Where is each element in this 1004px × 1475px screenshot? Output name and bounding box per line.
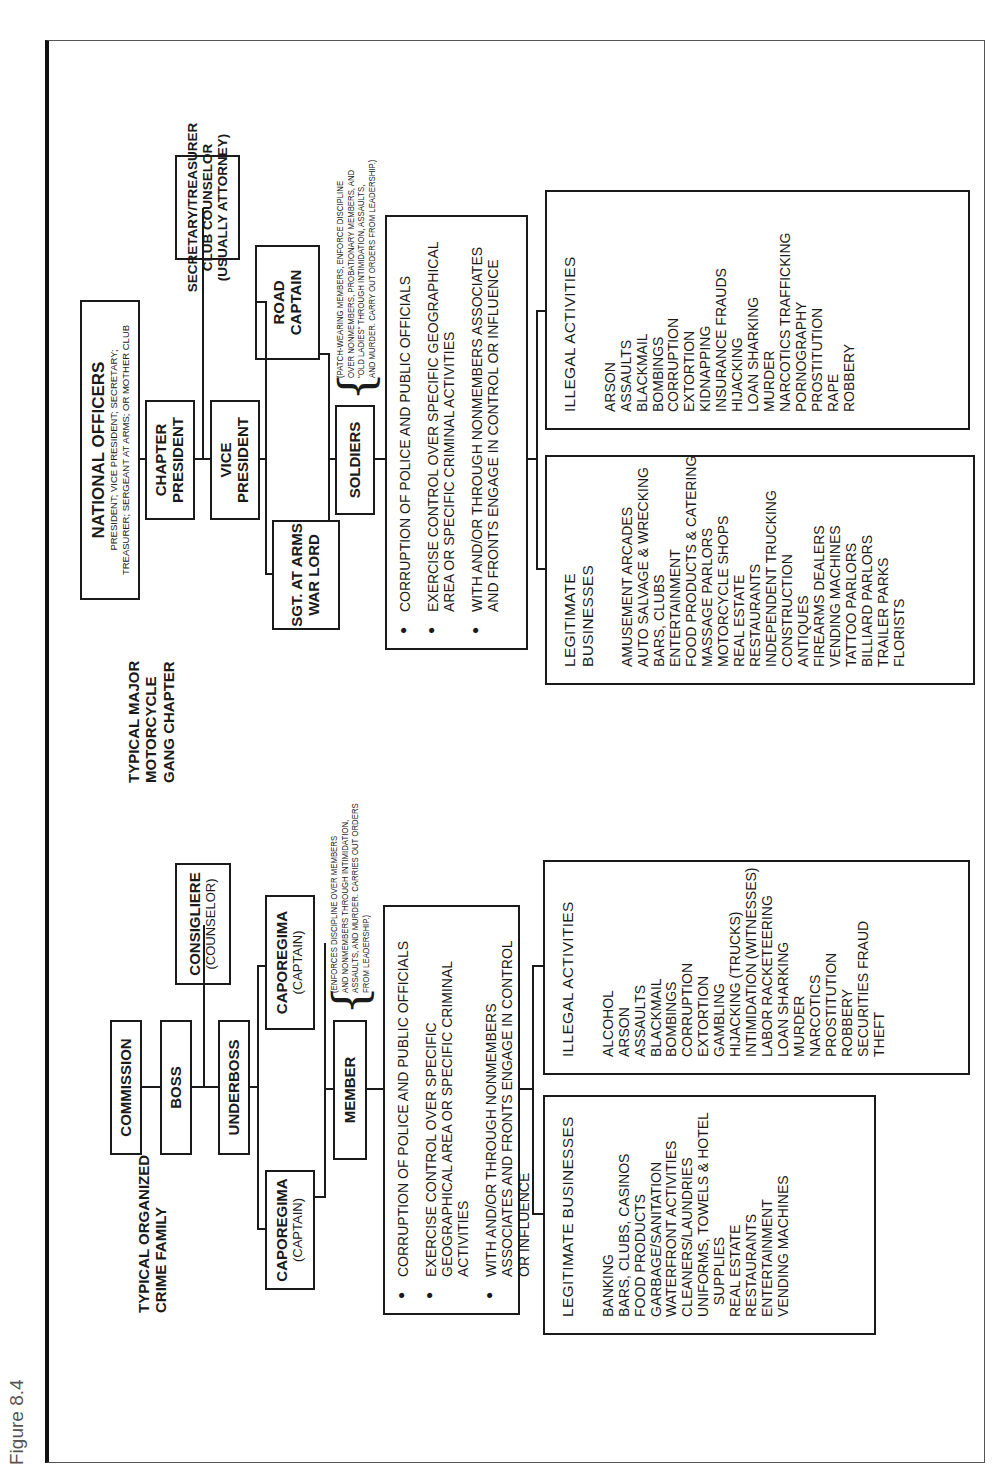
list-item: RESTAURANTS	[744, 1113, 760, 1317]
list-item: MOTORCYCLE SHOPS	[716, 473, 732, 667]
boss-label: BOSS	[168, 1066, 185, 1109]
legitimate-heading: LEGITIMATE BUSINESSES	[561, 473, 596, 667]
list-item: HIJACKING	[730, 208, 746, 412]
vice-president-box: VICE PRESIDENT	[210, 400, 260, 520]
list-item: INDEPENDENT TRUCKING	[764, 473, 780, 667]
connector	[202, 208, 204, 460]
motorcycle-legitimate-box: LEGITIMATE BUSINESSES AMUSEMENT ARCADES …	[545, 455, 975, 685]
list-item: MURDER	[762, 208, 778, 412]
method-item: WITH AND/OR THROUGH NONMEMBERS ASSOCIATE…	[483, 921, 531, 1299]
list-item: RESTAURANTS	[748, 473, 764, 667]
list-item: BLACKMAIL	[649, 878, 665, 1057]
list-item: ROBBERY	[842, 208, 858, 412]
list-item: BANKING	[601, 1113, 617, 1317]
list-item: LOAN SHARKING	[776, 878, 792, 1057]
consigliere-label: CONSIGLIERE	[187, 872, 204, 975]
connector	[375, 458, 385, 460]
connector	[140, 458, 145, 460]
list-item: CORRUPTION	[666, 208, 682, 412]
connector	[532, 1213, 543, 1215]
crime-family-title: TYPICAL ORGANIZED CRIME FAMILY	[135, 1155, 170, 1313]
connector	[142, 1086, 160, 1088]
sgt-at-arms-label: SGT. AT ARMS WAR LORD	[289, 523, 323, 627]
list-item: EXTORTION	[696, 878, 712, 1057]
member-note: (ENFORCES DISCIPLINE OVER MEMBERS AND NO…	[329, 803, 372, 993]
list-item: PROSTITUTION	[810, 208, 826, 412]
chapter-president-box: CHAPTER PRESIDENT	[145, 400, 195, 520]
list-item: SUPPLIES	[712, 1113, 728, 1317]
list-item: FOOD PRODUCTS & CATERING	[684, 473, 700, 667]
list-item: ANTIQUES	[796, 473, 812, 667]
motorcycle-gang-title: TYPICAL MAJOR MOTORCYCLE GANG CHAPTER	[125, 661, 177, 783]
soldiers-box: SOLDIERS	[335, 405, 375, 515]
list-item: NARCOTICS	[808, 878, 824, 1057]
list-item: GARBAGE/SANITATION	[649, 1113, 665, 1317]
list-item: BILLIARD PARLORS	[860, 473, 876, 667]
connector	[255, 301, 267, 303]
method-item: EXERCISE CONTROL OVER SPECIFIC GEOGRAPHI…	[423, 921, 471, 1299]
commission-box: COMMISSION	[110, 1020, 142, 1155]
list-item: GAMBLING	[712, 878, 728, 1057]
caporegima-right-label: CAPOREGIMA	[274, 911, 291, 1014]
soldiers-note: (PATCH-WEARING MEMBERS, ENFORCE DISCIPLI…	[335, 160, 378, 378]
secretary-treasurer-box: SECRETARY/TREASURER CLUB COUNSELOR (USUA…	[175, 155, 240, 260]
list-item: PROSTITUTION	[824, 878, 840, 1057]
crime-family-legitimate-box: LEGITIMATE BUSINESSES BANKING BARS, CLUB…	[543, 1095, 876, 1335]
connector	[328, 458, 335, 460]
commission-label: COMMISSION	[118, 1038, 135, 1136]
connector	[320, 353, 330, 355]
connector	[257, 1228, 265, 1230]
illegal-heading: ILLEGAL ACTIVITIES	[561, 208, 579, 412]
legitimate-heading: LEGITIMATE BUSINESSES	[559, 1113, 577, 1317]
list-item: BLACKMAIL	[635, 208, 651, 412]
soldiers-label: SOLDIERS	[347, 422, 364, 499]
connector	[532, 965, 543, 967]
figure-label: Figure 8.4	[6, 1379, 28, 1465]
underboss-box: UNDERBOSS	[218, 1020, 250, 1155]
vice-president-label: VICE PRESIDENT	[218, 417, 252, 503]
connector	[192, 1086, 218, 1088]
list-item: INTIMIDATION (WITNESSES)	[744, 878, 760, 1057]
list-item: HIJACKING (TRUCKS)	[728, 878, 744, 1057]
caporegima-left-box: CAPOREGIMA (CAPTAIN)	[265, 1170, 315, 1290]
caporegima-right-box: CAPOREGIMA (CAPTAIN)	[265, 895, 315, 1030]
connector	[536, 310, 538, 570]
list-item: ENTERTAINMENT	[668, 473, 684, 667]
list-item: LABOR RACKETEERING	[760, 878, 776, 1057]
list-item: WATERFRONT ACTIVITIES	[664, 1113, 680, 1317]
list-item: ARSON	[603, 208, 619, 412]
boss-box: BOSS	[160, 1020, 192, 1155]
list-item: MURDER	[792, 878, 808, 1057]
crime-family-illegal-box: ILLEGAL ACTIVITIES ALCOHOL ARSON ASSAULT…	[543, 860, 970, 1075]
list-item: FIREARMS DEALERS	[812, 473, 828, 667]
connector	[536, 568, 545, 570]
connector	[324, 1088, 333, 1090]
diagram-canvas: TYPICAL ORGANIZED CRIME FAMILY COMMISSIO…	[45, 40, 985, 1463]
list-item: KIDNAPPING	[698, 208, 714, 412]
list-item: CONSTRUCTION	[780, 473, 796, 667]
list-item: REAL ESTATE	[732, 473, 748, 667]
road-captain-label: ROAD CAPTAIN	[271, 270, 305, 336]
list-item: UNIFORMS, TOWELS & HOTEL	[696, 1113, 712, 1317]
list-item: RAPE	[826, 208, 842, 412]
connector	[257, 965, 265, 967]
list-item: CLEANERS/LAUNDRIES	[680, 1113, 696, 1317]
list-item: TATTOO PARLORS	[844, 473, 860, 667]
caporegima-right-sub: (CAPTAIN)	[291, 930, 306, 994]
connector	[532, 965, 534, 1215]
chapter-president-label: CHAPTER PRESIDENT	[153, 417, 187, 503]
connector	[265, 302, 267, 575]
method-item: CORRUPTION OF POLICE AND PUBLIC OFFICIAL…	[397, 231, 413, 634]
method-item: CORRUPTION OF POLICE AND PUBLIC OFFICIAL…	[395, 921, 411, 1299]
caporegima-left-sub: (CAPTAIN)	[291, 1198, 306, 1262]
secretary-treasurer-label: SECRETARY/TREASURER CLUB COUNSELOR (USUA…	[185, 123, 230, 293]
national-officers-sub: TREASURER; SERGEANT AT ARMS; OR MOTHER C…	[120, 325, 132, 575]
list-item: BARS, CLUBS, CASINOS	[617, 1113, 633, 1317]
underboss-label: UNDERBOSS	[226, 1040, 243, 1136]
national-officers-box: NATIONAL OFFICERS PRESIDENT; VICE PRESID…	[80, 300, 140, 600]
list-item: AMUSEMENT ARCADES	[620, 473, 636, 667]
connector	[520, 1088, 532, 1090]
consigliere-sub: (COUNSELOR)	[204, 879, 219, 970]
method-item: EXERCISE CONTROL OVER SPECIFIC GEOGRAPHI…	[425, 231, 457, 634]
list-item: CORRUPTION	[680, 878, 696, 1057]
